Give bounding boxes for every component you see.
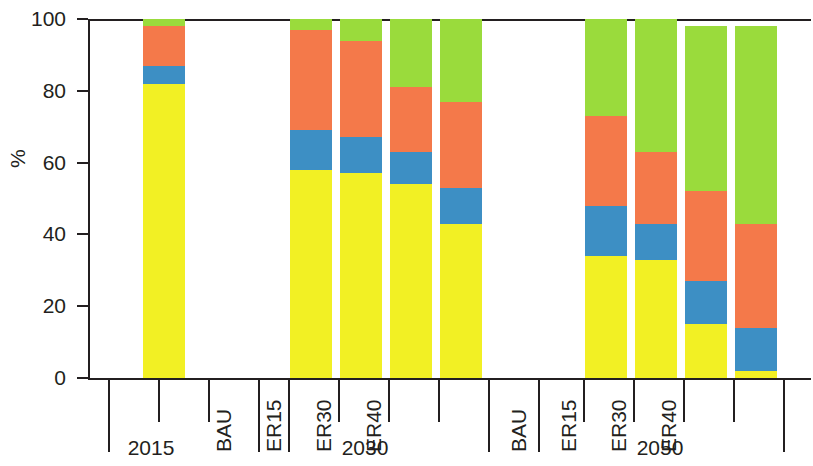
- x-tick-minor-7: [438, 380, 440, 422]
- bar-segment-green: [340, 19, 382, 41]
- bar-segment-orange: [143, 26, 185, 65]
- bar-2030-BAU: [290, 19, 332, 378]
- x-tick-minor-13: [733, 380, 735, 422]
- y-tick-0: [77, 377, 88, 379]
- bar-segment-yellow: [340, 173, 382, 378]
- x-tick-major-1: [258, 380, 260, 452]
- bar-segment-yellow: [585, 256, 627, 378]
- x-tick-major-3: [488, 380, 490, 452]
- plot-area: [90, 19, 811, 378]
- bar-2015: [143, 19, 185, 378]
- bar-segment-blue: [340, 137, 382, 173]
- x-tick-major-4: [538, 380, 540, 452]
- x-group-label-2030: 2030: [310, 437, 420, 458]
- y-tick-label-100: 100: [6, 8, 66, 29]
- bar-segment-blue: [635, 224, 677, 260]
- x-tick-minor-12: [683, 380, 685, 422]
- x-label-2030-er15: ER15: [263, 399, 284, 452]
- y-tick-label-80: 80: [6, 80, 66, 101]
- x-group-label-2050: 2050: [605, 437, 715, 458]
- bar-segment-orange: [585, 116, 627, 206]
- bar-segment-blue: [390, 152, 432, 184]
- bar-segment-yellow: [290, 170, 332, 378]
- bar-segment-orange: [635, 152, 677, 224]
- y-tick-40: [77, 233, 88, 235]
- x-tick-minor-10: [583, 380, 585, 422]
- bar-segment-blue: [735, 328, 777, 371]
- bar-segment-green: [585, 19, 627, 116]
- bar-segment-orange: [685, 191, 727, 281]
- bar-segment-green: [290, 19, 332, 30]
- bar-2050-ER30: [685, 26, 727, 378]
- bar-segment-green: [143, 19, 185, 26]
- y-tick-20: [77, 305, 88, 307]
- bar-segment-blue: [143, 66, 185, 84]
- y-tick-80: [77, 90, 88, 92]
- bar-segment-green: [390, 19, 432, 87]
- bar-segment-green: [685, 26, 727, 191]
- bar-2030-ER40: [440, 19, 482, 378]
- stacked-bar-chart: % 100806040200 BAU ER15 ER30 ER40 BAU ER…: [0, 0, 813, 466]
- y-tick-label-60: 60: [6, 152, 66, 173]
- bar-segment-green: [735, 26, 777, 223]
- x-tick-major-5: [783, 380, 785, 452]
- bar-segment-green: [440, 19, 482, 102]
- x-axis-line: [88, 378, 811, 380]
- bar-segment-blue: [685, 281, 727, 324]
- x-tick-minor-2: [208, 380, 210, 422]
- y-tick-100: [77, 18, 88, 20]
- bar-segment-yellow: [390, 184, 432, 378]
- bar-segment-orange: [440, 102, 482, 188]
- bar-segment-orange: [735, 224, 777, 328]
- bar-segment-blue: [585, 206, 627, 256]
- bar-segment-yellow: [143, 84, 185, 378]
- bar-2050-ER40: [735, 26, 777, 378]
- x-group-label-2015: 2015: [96, 437, 206, 458]
- bar-segment-yellow: [635, 260, 677, 378]
- bar-segment-yellow: [735, 371, 777, 378]
- bar-segment-blue: [290, 130, 332, 169]
- bar-2030-ER30: [390, 19, 432, 378]
- bar-segment-green: [635, 19, 677, 152]
- bar-segment-yellow: [440, 224, 482, 378]
- x-tick-minor-11: [633, 380, 635, 422]
- bar-segment-yellow: [685, 324, 727, 378]
- x-label-2050-er15: ER15: [558, 399, 579, 452]
- y-tick-label-40: 40: [6, 223, 66, 244]
- bar-segment-orange: [390, 87, 432, 152]
- bar-2050-BAU: [585, 19, 627, 378]
- y-tick-60: [77, 162, 88, 164]
- bar-segment-orange: [340, 41, 382, 138]
- x-tick-minor-5: [338, 380, 340, 422]
- bar-2030-ER15: [340, 19, 382, 378]
- x-tick-minor-1: [158, 380, 160, 422]
- x-tick-minor-6: [388, 380, 390, 422]
- bar-2050-ER15: [635, 19, 677, 378]
- bar-segment-orange: [290, 30, 332, 131]
- y-tick-label-20: 20: [6, 295, 66, 316]
- x-label-2030-bau: BAU: [213, 409, 234, 452]
- y-tick-label-0: 0: [6, 367, 66, 388]
- x-label-2050-bau: BAU: [508, 409, 529, 452]
- x-tick-major-2: [288, 380, 290, 452]
- bar-segment-blue: [440, 188, 482, 224]
